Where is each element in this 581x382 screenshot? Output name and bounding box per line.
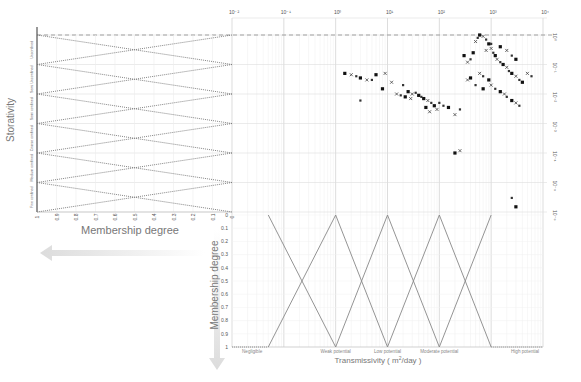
x-tick-label: 10⁻¹ bbox=[281, 9, 292, 15]
left-panel-grid bbox=[37, 27, 232, 212]
data-point bbox=[518, 79, 520, 81]
data-point bbox=[458, 149, 461, 152]
transmissivity-class-label: Low potential bbox=[374, 349, 401, 354]
membership-tick-label: 0.9 bbox=[221, 331, 228, 337]
membership-tick-label: 0.5 bbox=[221, 278, 228, 284]
data-point bbox=[430, 102, 432, 104]
membership-tick-label: 1 bbox=[34, 215, 40, 218]
x-axis-top-ticks: 10⁻²10⁻¹10⁰10¹10²10³10⁴ bbox=[229, 9, 549, 15]
transmissivity-class-label: Negligible bbox=[242, 349, 263, 354]
y-tick-label: 10⁻³ bbox=[552, 122, 558, 133]
y-tick-label: 10⁻² bbox=[552, 92, 558, 103]
data-point bbox=[459, 108, 461, 110]
membership-tick-label: 0.8 bbox=[221, 317, 228, 323]
storativity-class-label: Semi confined bbox=[30, 97, 34, 120]
data-point bbox=[359, 99, 361, 101]
bottom-membership-ticks: 00.10.20.30.40.50.60.70.80.91 bbox=[221, 212, 228, 350]
data-point bbox=[506, 96, 508, 98]
data-point bbox=[494, 88, 496, 90]
data-point bbox=[462, 54, 465, 57]
data-point bbox=[438, 102, 440, 104]
data-point bbox=[428, 110, 431, 113]
data-point bbox=[518, 105, 520, 107]
data-point bbox=[514, 205, 517, 208]
membership-tick-label: 0.9 bbox=[54, 213, 60, 220]
membership-tick-label: 0.7 bbox=[93, 213, 99, 220]
data-point bbox=[407, 90, 410, 93]
data-point bbox=[417, 94, 420, 97]
x-tick-label: 10³ bbox=[490, 9, 498, 15]
data-point bbox=[469, 58, 471, 60]
membership-tick-label: 0.3 bbox=[221, 251, 228, 257]
data-point bbox=[374, 73, 377, 76]
y-tick-label: 10⁻⁴ bbox=[552, 151, 558, 162]
data-point bbox=[487, 42, 490, 45]
data-point bbox=[453, 151, 456, 154]
transmissivity-class-label: Weak potential bbox=[321, 349, 351, 354]
scatter-points bbox=[343, 33, 532, 208]
x-tick-label: 10⁻² bbox=[229, 9, 240, 15]
transmissivity-class-label: Moderate potential bbox=[420, 349, 458, 354]
membership-tick-label: 0.5 bbox=[132, 213, 138, 220]
left-arrow-icon bbox=[40, 245, 205, 261]
bottom-membership-axis-title: Membership degree bbox=[209, 240, 220, 329]
data-point bbox=[409, 97, 412, 100]
membership-tick-label: 0.3 bbox=[171, 213, 177, 220]
data-point bbox=[502, 63, 505, 66]
data-point bbox=[381, 87, 384, 90]
data-point bbox=[433, 104, 436, 107]
data-point bbox=[499, 61, 501, 63]
x-tick-label: 10¹ bbox=[386, 9, 394, 15]
x-tick-label: 10⁴ bbox=[541, 9, 549, 15]
data-point bbox=[510, 72, 513, 75]
membership-tick-label: 0.7 bbox=[221, 304, 228, 310]
data-point bbox=[390, 81, 393, 84]
data-point bbox=[496, 58, 499, 61]
data-point bbox=[499, 45, 502, 48]
storativity-class-label: Semi Unconfined bbox=[30, 66, 34, 93]
data-point bbox=[355, 75, 357, 77]
data-point bbox=[424, 106, 427, 109]
data-point bbox=[415, 92, 417, 94]
storativity-class-label: Coarse confined bbox=[30, 125, 34, 151]
storativity-class-label: Fine confined bbox=[30, 186, 34, 208]
y-tick-label: 10⁰ bbox=[552, 33, 558, 41]
membership-tick-label: 0.1 bbox=[210, 213, 216, 220]
data-point bbox=[447, 106, 450, 109]
data-point bbox=[343, 72, 346, 75]
membership-tick-label: 0.4 bbox=[221, 265, 228, 271]
membership-tick-label: 0.1 bbox=[221, 225, 228, 231]
x-tick-label: 10² bbox=[438, 9, 446, 15]
data-point bbox=[420, 96, 422, 98]
membership-tick-label: 0.6 bbox=[221, 291, 228, 297]
fuzzy-aquifer-chart: 10⁻²10⁻¹10⁰10¹10²10³10⁴ 10⁰10⁻¹10⁻²10⁻³1… bbox=[0, 0, 581, 382]
membership-tick-label: 0.2 bbox=[221, 238, 228, 244]
data-point bbox=[511, 197, 513, 199]
membership-tick-label: 0.4 bbox=[151, 213, 157, 220]
membership-tick-label: 0.2 bbox=[190, 213, 196, 220]
x-tick-label: 10⁰ bbox=[334, 9, 342, 15]
data-point bbox=[514, 58, 517, 61]
y-tick-label: 10⁻⁶ bbox=[552, 210, 558, 221]
data-point bbox=[466, 61, 469, 64]
data-point bbox=[442, 105, 444, 107]
data-point bbox=[477, 37, 479, 39]
data-point bbox=[510, 99, 513, 102]
left-membership-axis-title: Membership degree bbox=[81, 224, 179, 236]
data-point bbox=[359, 76, 362, 79]
data-point bbox=[371, 79, 373, 81]
storativity-axis-title: Storativity bbox=[5, 98, 16, 142]
data-point bbox=[530, 75, 532, 77]
data-point bbox=[511, 55, 513, 57]
data-point bbox=[487, 78, 490, 81]
membership-tick-label: 0.6 bbox=[112, 213, 118, 220]
data-point bbox=[482, 87, 485, 90]
y-tick-label: 10⁻¹ bbox=[552, 63, 558, 74]
data-point bbox=[469, 76, 472, 79]
data-point bbox=[466, 78, 469, 81]
y-axis-right-ticks: 10⁰10⁻¹10⁻²10⁻³10⁻⁴10⁻⁵10⁻⁶ bbox=[552, 33, 558, 221]
data-point bbox=[404, 95, 407, 98]
membership-tick-label: 0 bbox=[229, 215, 235, 218]
membership-tick-label: 0.8 bbox=[73, 213, 79, 220]
data-point bbox=[490, 43, 492, 45]
